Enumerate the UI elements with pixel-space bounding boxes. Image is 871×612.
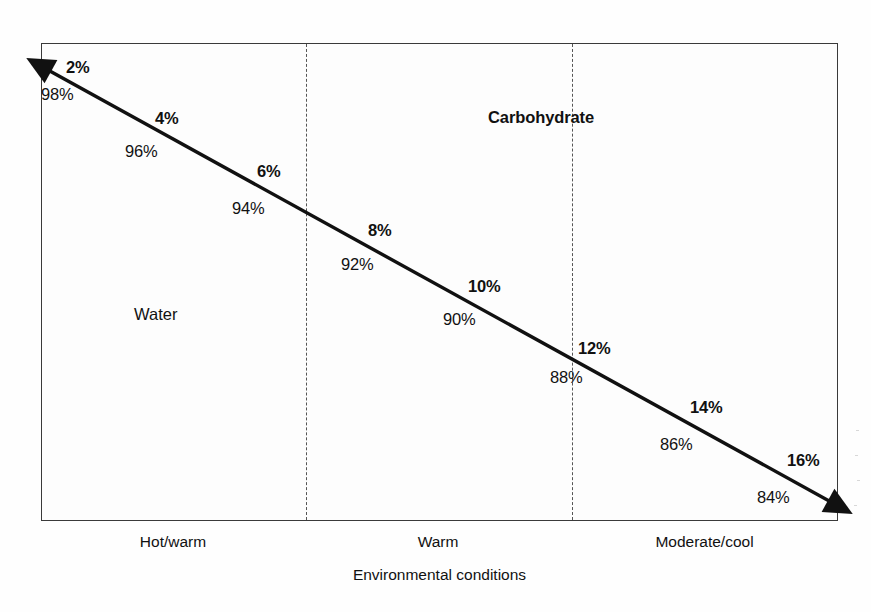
water-label-98: 98% [41, 86, 73, 103]
water-label-88: 88% [550, 369, 582, 386]
carb-label-6: 6% [257, 163, 280, 180]
carb-label-14: 14% [690, 399, 722, 416]
region-label-carbohydrate: Carbohydrate [488, 108, 594, 127]
carb-label-12: 12% [578, 340, 610, 357]
x-axis-title: Environmental conditions [41, 566, 838, 584]
water-label-92: 92% [341, 256, 373, 273]
water-label-84: 84% [757, 489, 789, 506]
water-label-86: 86% [660, 436, 692, 453]
zone-divider-1 [306, 44, 307, 520]
scan-artifact [854, 505, 857, 506]
water-label-96: 96% [125, 143, 157, 160]
region-label-water: Water [134, 305, 177, 324]
scan-artifact [855, 455, 858, 456]
carb-label-2: 2% [66, 59, 89, 76]
scan-artifact [857, 480, 860, 481]
x-axis-category-hot-warm: Hot/warm [41, 533, 305, 551]
chart-figure: 2% 4% 6% 8% 10% 12% 14% 16% 98% 96% 94% … [0, 0, 871, 612]
carb-label-4: 4% [155, 110, 178, 127]
carb-label-8: 8% [368, 222, 391, 239]
water-label-90: 90% [443, 311, 475, 328]
water-label-94: 94% [232, 200, 264, 217]
scan-artifact [856, 430, 859, 431]
carb-label-10: 10% [468, 278, 500, 295]
x-axis-category-moderate-cool: Moderate/cool [571, 533, 838, 551]
x-axis-category-warm: Warm [305, 533, 571, 551]
carb-label-16: 16% [787, 452, 819, 469]
